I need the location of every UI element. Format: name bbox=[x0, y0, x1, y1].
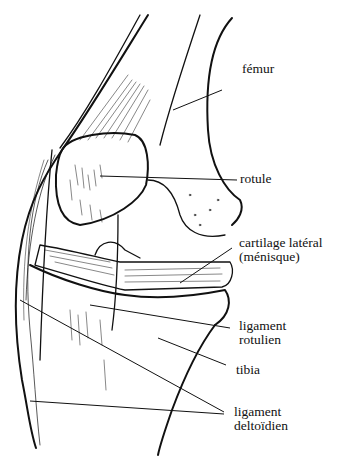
patella-hatching bbox=[70, 165, 102, 222]
label-cartilage-line1: cartilage latéral bbox=[239, 236, 323, 250]
label-femur: fémur bbox=[242, 62, 274, 76]
label-femur-text: fémur bbox=[242, 61, 274, 76]
label-ligament-rotulien: ligament rotulien bbox=[239, 319, 286, 347]
leader-femur bbox=[173, 90, 222, 110]
leader-cartilage bbox=[180, 248, 232, 283]
condyle-contour bbox=[148, 180, 225, 236]
tibia-shaft-contour bbox=[158, 325, 215, 455]
patella-contour bbox=[56, 133, 148, 225]
label-cartilage-line2: (ménisque) bbox=[239, 250, 323, 264]
leader-ligament-rotulien bbox=[90, 305, 230, 328]
label-ligament-deltoidien-line2: deltoïdien bbox=[234, 419, 288, 433]
leader-tibia bbox=[158, 338, 226, 365]
femur-posterior-contour bbox=[207, 18, 241, 225]
label-ligament-deltoidien-line1: ligament bbox=[234, 405, 288, 419]
knee-anatomy-diagram: fémur rotule cartilage latéral (ménisque… bbox=[0, 0, 342, 458]
label-rotule: rotule bbox=[240, 172, 272, 186]
leader-rotule bbox=[100, 176, 237, 180]
label-cartilage: cartilage latéral (ménisque) bbox=[239, 236, 323, 264]
tibia-plateau bbox=[30, 265, 229, 325]
femur-contour bbox=[160, 15, 200, 145]
outer-skin-contour bbox=[16, 15, 148, 448]
knee-drawing bbox=[0, 0, 342, 458]
leader-ligament-deltoidien-2 bbox=[30, 401, 224, 414]
label-ligament-deltoidien: ligament deltoïdien bbox=[234, 405, 288, 433]
label-ligament-rotulien-line2: rotulien bbox=[239, 333, 286, 347]
label-rotule-text: rotule bbox=[240, 171, 272, 186]
leader-ligament-deltoidien-1 bbox=[20, 300, 224, 412]
label-ligament-rotulien-line1: ligament bbox=[239, 319, 286, 333]
label-tibia: tibia bbox=[236, 363, 260, 377]
label-tibia-text: tibia bbox=[236, 362, 260, 377]
